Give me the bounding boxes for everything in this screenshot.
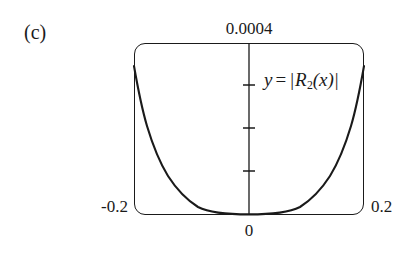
equation-equals: =: [272, 69, 289, 90]
x-axis-max-label: 0.2: [371, 198, 392, 215]
y-axis-max-label: 0.0004: [226, 20, 273, 37]
x-axis-origin-label: 0: [245, 222, 254, 239]
panel-label: (c): [24, 22, 46, 42]
figure-panel: (c) 0.0004 -0.2 0.2 0 y=|R2(x)|: [0, 0, 410, 256]
equation-r: R: [295, 69, 307, 90]
x-axis-min-label: -0.2: [101, 198, 128, 215]
curve-equation-label: y=|R2(x)|: [264, 70, 340, 92]
equation-argument: (x): [313, 69, 334, 90]
equation-bar-close: |: [334, 69, 340, 90]
